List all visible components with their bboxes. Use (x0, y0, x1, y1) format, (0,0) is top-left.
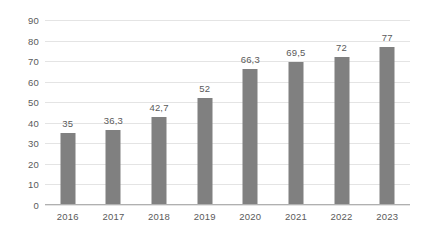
bar[interactable] (288, 62, 303, 205)
bar-group: 42,7 (136, 20, 182, 205)
x-tick-label: 2020 (228, 211, 274, 222)
bar-group: 66,3 (228, 20, 274, 205)
x-tick-label: 2016 (45, 211, 91, 222)
y-tick-label: 80 (5, 35, 39, 46)
y-tick-label: 0 (5, 200, 39, 211)
y-tick-label: 50 (5, 97, 39, 108)
bar[interactable] (152, 117, 167, 205)
bar[interactable] (334, 57, 349, 205)
y-tick-label: 10 (5, 179, 39, 190)
bar-value-label: 69,5 (286, 47, 305, 58)
bar-value-label: 36,3 (104, 115, 123, 126)
x-tick-label: 2019 (182, 211, 228, 222)
bar-value-label: 42,7 (149, 102, 168, 113)
bar-chart: 0102030405060708090 3536,342,75266,369,5… (0, 0, 422, 234)
bar-series: 3536,342,75266,369,57277 (45, 20, 410, 205)
x-tick-label: 2022 (319, 211, 365, 222)
bar[interactable] (243, 69, 258, 205)
y-tick-label: 60 (5, 76, 39, 87)
bar-value-label: 52 (199, 83, 210, 94)
y-tick-label: 40 (5, 117, 39, 128)
x-tick-label: 2018 (136, 211, 182, 222)
x-tick-label: 2021 (273, 211, 319, 222)
bar[interactable] (60, 133, 75, 205)
bar-value-label: 72 (336, 42, 347, 53)
y-tick-label: 70 (5, 56, 39, 67)
bar[interactable] (380, 47, 395, 205)
x-tick-label: 2023 (364, 211, 410, 222)
bar-group: 52 (182, 20, 228, 205)
y-tick-label: 30 (5, 138, 39, 149)
bar-value-label: 66,3 (241, 54, 260, 65)
bar-group: 36,3 (91, 20, 137, 205)
y-tick-label: 90 (5, 15, 39, 26)
bar-group: 72 (319, 20, 365, 205)
bar[interactable] (197, 98, 212, 205)
x-tick-label: 2017 (91, 211, 137, 222)
bar-value-label: 77 (382, 32, 393, 43)
x-axis-line (45, 204, 410, 205)
x-axis-labels: 20162017201820192020202120222023 (45, 211, 410, 227)
bar[interactable] (106, 130, 121, 205)
bar-group: 77 (364, 20, 410, 205)
bar-group: 69,5 (273, 20, 319, 205)
bar-value-label: 35 (62, 118, 73, 129)
gridline-0 (45, 205, 410, 206)
y-tick-label: 20 (5, 158, 39, 169)
plot-area: 0102030405060708090 3536,342,75266,369,5… (45, 20, 410, 205)
bar-group: 35 (45, 20, 91, 205)
